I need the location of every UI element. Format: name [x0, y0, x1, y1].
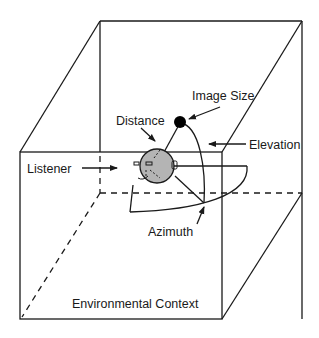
spatial-audio-diagram: Image Size Distance Elevation Listener A… [0, 0, 319, 338]
distance-line [163, 123, 180, 154]
elevation-label: Elevation [249, 138, 300, 152]
environment-label: Environmental Context [72, 297, 199, 311]
azimuth-label: Azimuth [148, 225, 193, 239]
azimuth-arrow [197, 207, 204, 224]
listener-label: Listener [27, 162, 71, 176]
elevation-arc [180, 123, 204, 203]
distance-label: Distance [116, 114, 165, 128]
distance-arrow [141, 128, 155, 141]
image-size-label: Image Size [192, 89, 255, 103]
sound-source [174, 116, 186, 128]
listener-head [134, 149, 177, 183]
image-size-arrow [189, 107, 220, 119]
eye-left-icon [134, 162, 139, 165]
